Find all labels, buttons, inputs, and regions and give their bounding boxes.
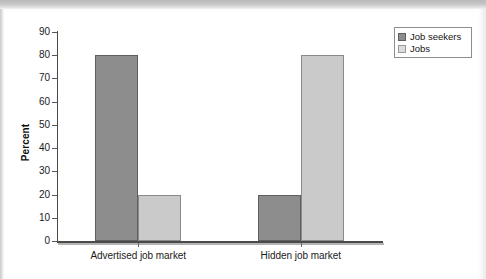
legend-swatch-icon-job-seekers	[398, 33, 406, 41]
y-axis-tick-label: 30	[4, 166, 50, 176]
y-axis-tick-labels: 0102030405060708090	[0, 0, 50, 279]
y-axis-tick-label: 10	[4, 213, 50, 223]
y-axis-tick	[52, 148, 58, 149]
x-axis-tick-label: Hidden job market	[221, 250, 381, 261]
y-axis-tick	[52, 102, 58, 103]
x-axis-tick	[301, 243, 302, 247]
y-axis-tick	[52, 78, 58, 79]
bar	[95, 55, 138, 241]
y-axis-tick	[52, 241, 58, 242]
y-axis-tick	[52, 125, 58, 126]
x-axis-line-shadow	[58, 243, 384, 245]
legend-swatch-icon-jobs	[398, 45, 406, 53]
x-axis-tick	[138, 243, 139, 247]
y-axis-line	[57, 31, 58, 242]
y-axis-tick	[52, 218, 58, 219]
y-axis-tick-label: 40	[4, 143, 50, 153]
y-axis-tick-label: 20	[4, 190, 50, 200]
chart-legend: Job seekers Jobs	[394, 27, 472, 58]
legend-item-jobs[interactable]: Jobs	[398, 43, 467, 54]
y-axis-tick	[52, 32, 58, 33]
bar	[258, 195, 301, 241]
y-axis-tick-label: 70	[4, 73, 50, 83]
x-axis-tick-label: Advertised job market	[58, 250, 218, 261]
y-axis-tick-label: 50	[4, 120, 50, 130]
legend-label-job-seekers: Job seekers	[410, 32, 461, 42]
bar	[301, 55, 344, 241]
y-axis-tick	[52, 171, 58, 172]
bar-chart: Percent 0102030405060708090 Advertised j…	[0, 0, 486, 279]
legend-item-job-seekers[interactable]: Job seekers	[398, 31, 467, 42]
y-axis-tick-label: 90	[4, 27, 50, 37]
y-axis-tick-label: 60	[4, 97, 50, 107]
bar	[138, 195, 181, 241]
y-axis-tick	[52, 55, 58, 56]
y-axis-tick-label: 80	[4, 50, 50, 60]
y-axis-tick	[52, 195, 58, 196]
legend-label-jobs: Jobs	[410, 44, 430, 54]
y-axis-tick-label: 0	[4, 236, 50, 246]
